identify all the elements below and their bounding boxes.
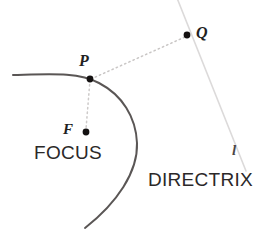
diagram-canvas — [0, 0, 266, 233]
segment-p-to-f — [86, 80, 90, 129]
point-f-dot — [83, 129, 90, 136]
point-q-label: Q — [196, 25, 208, 41]
point-f-label: F — [63, 122, 73, 137]
parabola-focus-directrix-diagram: P Q F l FOCUS DIRECTRIX — [0, 0, 266, 233]
directrix-line-label: l — [232, 143, 236, 158]
point-p-label: P — [79, 53, 89, 69]
focus-caption: FOCUS — [34, 143, 102, 162]
segment-p-to-q — [91, 37, 185, 79]
point-p-dot — [87, 76, 94, 83]
point-q-dot — [184, 32, 191, 39]
directrix-caption: DIRECTRIX — [148, 170, 253, 189]
